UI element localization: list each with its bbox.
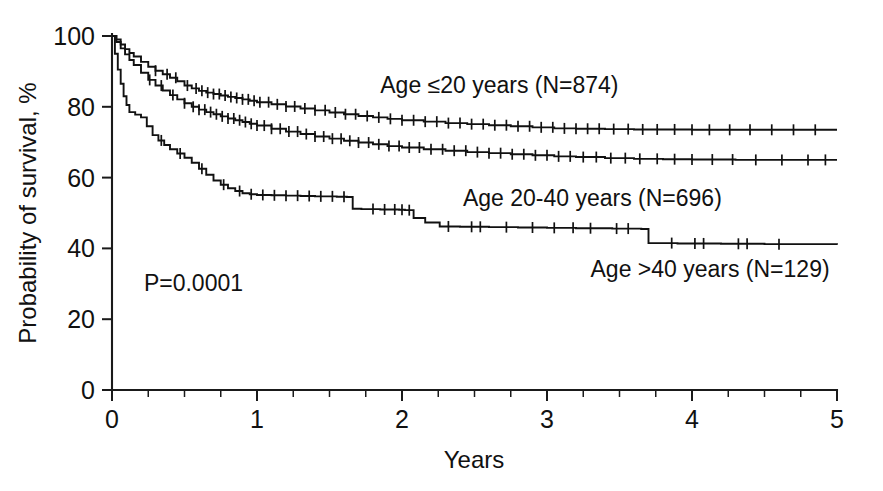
kaplan-meier-plot: 020406080100 012345 Age ≤20 years (N=874… bbox=[0, 0, 883, 491]
x-tick-label: 4 bbox=[685, 405, 699, 433]
x-tick-label: 0 bbox=[105, 405, 119, 433]
survival-curve bbox=[112, 36, 837, 160]
x-axis-tick-labels: 012345 bbox=[105, 405, 844, 433]
series-label: Age >40 years (N=129) bbox=[591, 256, 830, 282]
series-label: Age 20-40 years (N=696) bbox=[463, 185, 722, 211]
y-tick-label: 60 bbox=[67, 164, 95, 192]
x-axis-title: Years bbox=[444, 446, 505, 473]
y-axis-title: Probability of survival, % bbox=[14, 82, 41, 343]
p-value-annotation: P=0.0001 bbox=[144, 270, 243, 296]
x-tick-label: 5 bbox=[830, 405, 844, 433]
y-tick-label: 100 bbox=[53, 22, 95, 50]
y-tick-label: 80 bbox=[67, 93, 95, 121]
y-axis-tick-labels: 020406080100 bbox=[53, 22, 95, 404]
x-tick-label: 3 bbox=[540, 405, 554, 433]
statistic-annotations-group: P=0.0001 bbox=[144, 270, 243, 296]
series-annotation-labels: Age ≤20 years (N=874)Age 20-40 years (N=… bbox=[380, 72, 829, 282]
survival-chart-figure: 020406080100 012345 Age ≤20 years (N=874… bbox=[0, 0, 883, 491]
x-tick-label: 1 bbox=[250, 405, 264, 433]
y-tick-label: 20 bbox=[67, 305, 95, 333]
y-tick-label: 40 bbox=[67, 234, 95, 262]
survival-curve bbox=[112, 36, 837, 245]
survival-curves-group bbox=[112, 36, 837, 245]
series-label: Age ≤20 years (N=874) bbox=[380, 72, 618, 98]
x-tick-label: 2 bbox=[395, 405, 409, 433]
y-tick-label: 0 bbox=[81, 376, 95, 404]
